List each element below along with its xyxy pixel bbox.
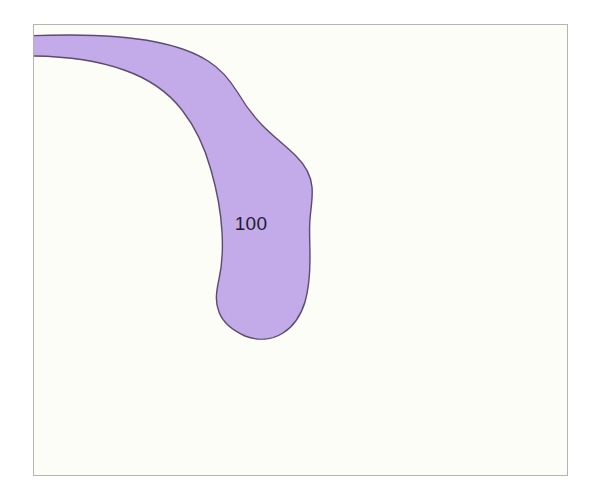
contour-level-label: 100 — [235, 213, 268, 234]
contour-map-figure: 100 — [0, 0, 602, 501]
contour-region-100 — [28, 35, 312, 339]
contour-svg: 100 — [0, 0, 602, 501]
contour-band-100 — [28, 35, 312, 339]
